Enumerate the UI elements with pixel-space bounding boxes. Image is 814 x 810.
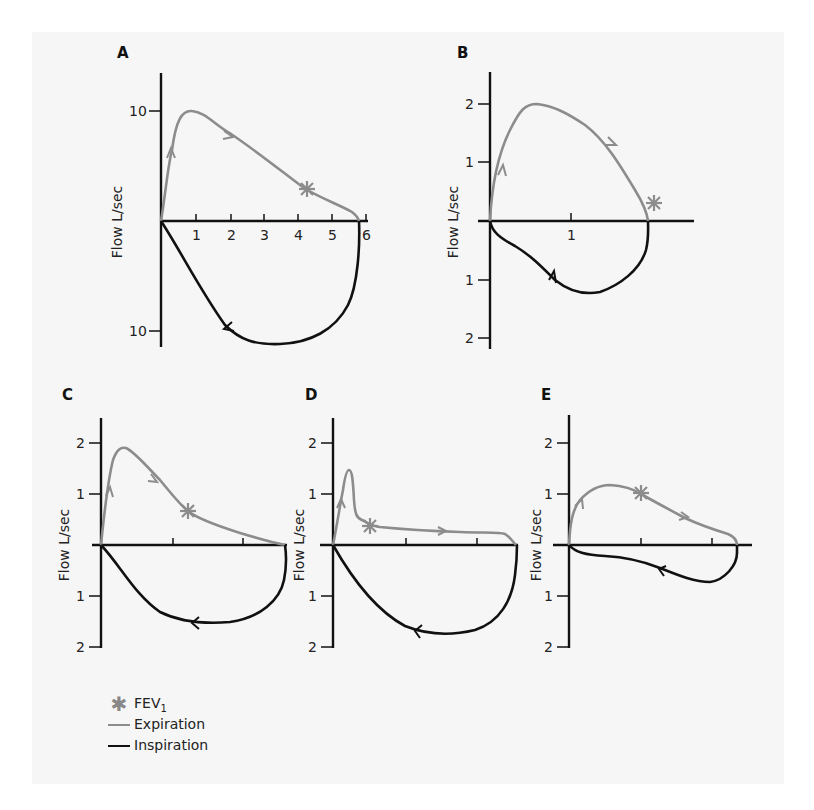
fev1-asterisk-icon (299, 181, 315, 197)
arrow-left-icon (224, 322, 234, 331)
panel-label-d: D (305, 386, 317, 404)
legend-item-fev1: ✱ FEV1 (108, 693, 208, 714)
y-tick-2-down: 2 (544, 639, 553, 655)
y-tick-1-down: 1 (76, 588, 85, 604)
y-tick-1-down: 1 (544, 588, 553, 604)
legend-label-expiration: Expiration (134, 714, 205, 735)
y-tick-2-down: 2 (76, 639, 85, 655)
legend-label-fev1: FEV1 (134, 693, 167, 715)
y-axis-label: Flow L/sec (445, 186, 461, 259)
arrow-up-icon (498, 165, 506, 176)
y-tick-2-down: 2 (465, 330, 474, 346)
x-tick-4: 4 (294, 227, 303, 243)
y-tick-2-up: 2 (76, 435, 85, 451)
x-tick-6: 6 (362, 227, 371, 243)
y-tick-2-up: 2 (308, 435, 317, 451)
y-tick-1-down: 1 (465, 272, 474, 288)
legend-item-expiration: Expiration (108, 714, 208, 735)
legend-item-inspiration: Inspiration (108, 735, 208, 756)
panel-b: B 2 1 1 2 1 Flow L/sec (445, 44, 694, 349)
inspiration-curve (101, 545, 286, 623)
x-tick-1: 1 (192, 227, 201, 243)
expiration-curve (333, 470, 516, 545)
y-tick-1-up: 1 (308, 486, 317, 502)
gray-line-icon (108, 724, 130, 726)
y-axis-label: Flow L/sec (291, 509, 307, 582)
fev1-asterisk-icon (362, 518, 378, 534)
asterisk-icon: ✱ (108, 694, 130, 714)
legend-label-inspiration: Inspiration (134, 735, 208, 756)
x-tick-5: 5 (328, 227, 337, 243)
y-tick-1-up: 1 (76, 486, 85, 502)
y-tick-2-up: 2 (465, 96, 474, 112)
panel-label-a: A (117, 44, 129, 62)
y-tick-2-up: 2 (544, 435, 553, 451)
y-tick-2-down: 2 (308, 639, 317, 655)
panel-label-b: B (457, 44, 468, 62)
expiration-curve (101, 448, 285, 545)
y-tick-1-down: 1 (308, 588, 317, 604)
y-tick-1-up: 1 (544, 486, 553, 502)
y-tick-10-down: 10 (129, 323, 147, 339)
y-tick-1-up: 1 (465, 154, 474, 170)
x-tick-1: 1 (567, 227, 576, 243)
legend: ✱ FEV1 Expiration Inspiration (108, 693, 208, 756)
panel-label-c: C (62, 386, 73, 404)
x-tick-3: 3 (260, 227, 269, 243)
fev1-asterisk-icon (633, 485, 649, 501)
expiration-curve (569, 485, 737, 545)
x-tick-2: 2 (227, 227, 236, 243)
y-axis-label: Flow L/sec (56, 509, 72, 582)
panel-d: D 2 1 1 2 Flow L/sec (291, 386, 518, 655)
fev1-asterisk-icon (646, 195, 662, 211)
fev1-asterisk-icon (180, 503, 196, 519)
panel-e: E 2 1 1 2 Flow L/sec (528, 386, 752, 655)
panel-c: C 2 1 1 2 Flow L/sec (56, 386, 287, 655)
y-axis-label: Flow L/sec (109, 186, 125, 259)
arrow-right-icon (606, 137, 616, 145)
expiration-curve (490, 104, 648, 221)
flow-volume-loops-figure: A 10 10 1 2 3 4 5 6 Flow L/sec (0, 0, 814, 810)
black-line-icon (108, 745, 130, 747)
panel-a: A 10 10 1 2 3 4 5 6 Flow L/sec (109, 44, 371, 347)
y-axis-label: Flow L/sec (528, 509, 544, 582)
panel-label-e: E (541, 386, 551, 404)
inspiration-curve (333, 545, 517, 633)
expiration-curve (161, 111, 359, 221)
inspiration-curve (569, 545, 737, 582)
y-tick-10-up: 10 (129, 103, 147, 119)
